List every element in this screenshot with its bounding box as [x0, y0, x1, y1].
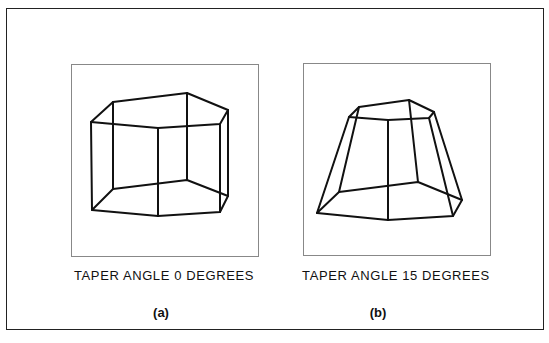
label-a: (a) — [141, 305, 181, 320]
frustum-wireframe-icon — [304, 64, 492, 257]
prism-wireframe-icon — [72, 65, 260, 258]
panel-a — [71, 64, 259, 257]
panel-b — [303, 63, 491, 256]
label-b: (b) — [358, 305, 398, 320]
caption-a: TAPER ANGLE 0 DEGREES — [64, 268, 264, 283]
caption-b: TAPER ANGLE 15 DEGREES — [296, 268, 496, 283]
